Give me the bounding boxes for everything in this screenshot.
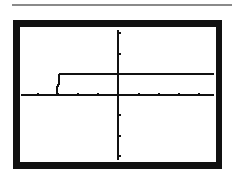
graph-plot xyxy=(0,0,232,178)
step-function-curve xyxy=(57,74,214,95)
